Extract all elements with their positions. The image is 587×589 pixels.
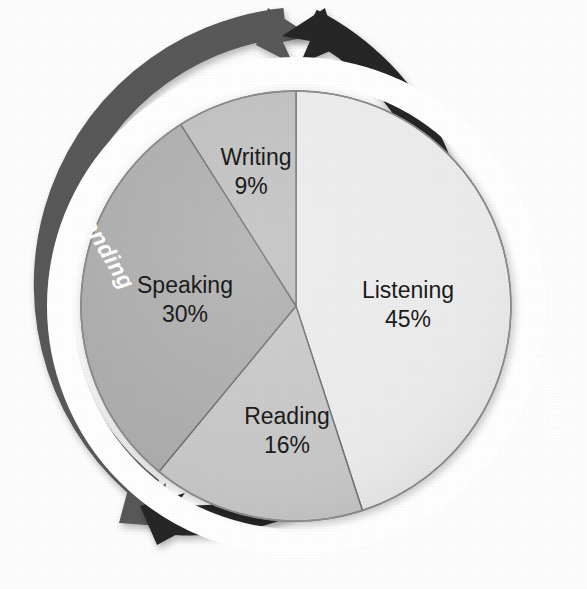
slice-label-listening-name: Listening [362, 277, 454, 303]
slice-label-writing-value: 9% [234, 173, 267, 199]
slice-label-reading-value: 16% [264, 432, 310, 458]
figure-root: Listening 45% Reading 16% Speaking 30% W… [0, 0, 587, 589]
slice-label-speaking-value: 30% [162, 301, 208, 327]
slice-label-listening-value: 45% [385, 306, 431, 332]
slice-label-reading-name: Reading [244, 403, 330, 429]
communication-pie-chart: Listening 45% Reading 16% Speaking 30% W… [0, 0, 587, 589]
slice-label-speaking-name: Speaking [137, 272, 233, 298]
slice-label-writing-name: Writing [220, 144, 291, 170]
